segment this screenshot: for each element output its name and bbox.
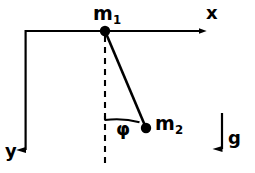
label-gravity: g	[228, 129, 241, 147]
label-m1: m1	[93, 4, 121, 23]
label-y-axis: y	[5, 142, 17, 160]
label-phi-angle: φ	[116, 120, 130, 138]
pendulum-figure: m1 m2 φ x y g	[0, 0, 255, 173]
label-x-axis: x	[206, 4, 218, 22]
label-m2-subscript: 2	[175, 123, 183, 137]
label-m2-base: m	[155, 112, 175, 134]
label-m1-base: m	[93, 2, 113, 24]
figure-canvas	[0, 0, 255, 173]
pivot-mass-m1	[100, 26, 110, 36]
label-m2: m2	[155, 114, 183, 133]
pendulum-rod	[105, 31, 146, 128]
bob-mass-m2	[141, 123, 151, 133]
label-m1-subscript: 1	[113, 13, 121, 27]
